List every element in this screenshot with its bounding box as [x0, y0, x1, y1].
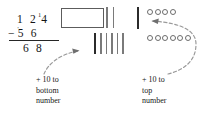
minuend-ones-digit: 4: [41, 13, 49, 25]
answer-rule-line: [9, 40, 59, 41]
unit-dot: [155, 35, 161, 41]
added-ten-tally-icon: [137, 7, 139, 29]
unit-dot: [185, 35, 191, 41]
difference-digits: 6 8: [23, 42, 44, 54]
difference-row: 6 8: [23, 42, 44, 54]
tally-mark: [106, 7, 108, 28]
tally-mark: [117, 33, 119, 54]
tally-mark: [113, 7, 115, 28]
arrow-to-top-tally: [153, 21, 196, 74]
tally-mark: [122, 33, 124, 54]
ones-dots-top: [147, 9, 193, 15]
arrowhead-left: [72, 49, 79, 54]
unit-dot: [162, 35, 168, 41]
hundreds-block-icon: [61, 8, 104, 28]
unit-dot: [177, 35, 183, 41]
caption-right-line-3: number: [142, 96, 166, 107]
minuend-tens-digits: 1 2: [17, 13, 38, 25]
unit-dot: [147, 35, 153, 41]
unit-dot: [162, 9, 168, 15]
subtraction-problem: 1 214 −'5 6 6 8: [8, 8, 64, 60]
unit-dot: [170, 9, 176, 15]
minuend-regroup-mark: 1: [38, 11, 41, 18]
tally-mark: [106, 33, 108, 54]
unit-dot: [147, 9, 153, 15]
tally-mark-new: [94, 33, 96, 54]
ones-dots-bottom: [147, 35, 193, 41]
arrowhead-right: [151, 19, 158, 24]
caption-left-line-2: bottom: [36, 86, 60, 97]
subtrahend-regroup-mark: ': [18, 25, 19, 32]
minuend-row: 1 214: [17, 12, 49, 25]
subtrahend-digits: 5 6: [18, 27, 39, 39]
tens-tallies-bottom: [94, 33, 124, 54]
tens-tallies-top: [106, 7, 114, 28]
tally-mark: [111, 33, 113, 54]
caption-left-line-1: + 10 to: [36, 75, 60, 86]
caption-left-line-3: number: [36, 96, 60, 107]
caption-top-number: + 10 to top number: [142, 75, 166, 107]
tally-mark: [100, 33, 102, 54]
subtrahend-row: −'5 6: [8, 26, 39, 39]
caption-right-line-2: top: [142, 86, 166, 97]
unit-dot: [170, 35, 176, 41]
unit-dot: [155, 9, 161, 15]
caption-bottom-number: + 10 to bottom number: [36, 75, 60, 107]
caption-right-line-1: + 10 to: [142, 75, 166, 86]
place-value-subtraction-diagram: 1 214 −'5 6 6 8: [0, 0, 216, 126]
minus-operator: −: [8, 27, 15, 39]
